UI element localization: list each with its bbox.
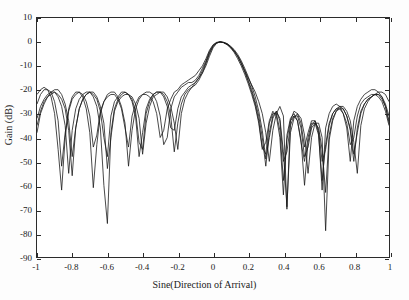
x-tick-label: -0.4 <box>135 263 149 272</box>
x-tick-mark <box>72 18 73 22</box>
x-axis-title: Sine(Direction of Arrival) <box>0 280 409 290</box>
y-tick-mark <box>37 211 41 212</box>
x-tick-label: 0.4 <box>278 263 289 272</box>
x-tick-mark <box>179 18 180 22</box>
x-tick-mark <box>108 253 109 257</box>
x-tick-label: 0.8 <box>349 263 360 272</box>
y-tick-mark <box>385 139 389 140</box>
x-tick-label: 0 <box>211 263 216 272</box>
y-tick-mark <box>385 163 389 164</box>
x-tick-mark <box>320 253 321 257</box>
x-tick-label: -0.6 <box>100 263 114 272</box>
y-tick-mark <box>385 235 389 236</box>
curve-pattern-4 <box>37 42 389 195</box>
x-tick-mark <box>249 253 250 257</box>
y-tick-mark <box>385 90 389 91</box>
y-tick-label: -70 <box>0 205 32 214</box>
curve-pattern-1 <box>37 42 389 209</box>
y-tick-label: -10 <box>0 61 32 70</box>
y-tick-mark <box>37 259 41 260</box>
y-tick-mark <box>385 259 389 260</box>
y-tick-label: 10 <box>0 13 32 22</box>
y-tick-mark <box>385 42 389 43</box>
x-tick-mark <box>214 18 215 22</box>
x-tick-mark <box>391 253 392 257</box>
curves-svg <box>37 18 389 257</box>
y-tick-mark <box>385 114 389 115</box>
x-tick-label: -0.2 <box>170 263 184 272</box>
x-tick-mark <box>391 18 392 22</box>
x-tick-mark <box>285 18 286 22</box>
y-tick-mark <box>385 187 389 188</box>
beampattern-figure: -1-0.8-0.6-0.4-0.200.20.40.60.81 100-10-… <box>0 0 409 300</box>
x-tick-mark <box>356 253 357 257</box>
y-tick-label: 0 <box>0 37 32 46</box>
x-tick-mark <box>320 18 321 22</box>
x-tick-mark <box>72 253 73 257</box>
x-tick-mark <box>285 253 286 257</box>
y-tick-mark <box>37 90 41 91</box>
x-tick-mark <box>356 18 357 22</box>
y-tick-mark <box>37 163 41 164</box>
y-tick-mark <box>37 42 41 43</box>
y-tick-mark <box>37 235 41 236</box>
x-tick-mark <box>143 18 144 22</box>
x-tick-mark <box>214 253 215 257</box>
x-tick-label: 1 <box>388 263 393 272</box>
y-tick-label: -90 <box>0 254 32 263</box>
x-tick-label: -1 <box>32 263 40 272</box>
x-tick-label: 0.2 <box>243 263 254 272</box>
x-tick-mark <box>143 253 144 257</box>
y-tick-mark <box>37 66 41 67</box>
x-tick-mark <box>37 253 38 257</box>
y-tick-mark <box>37 139 41 140</box>
y-tick-mark <box>385 66 389 67</box>
y-tick-mark <box>37 187 41 188</box>
x-tick-label: -0.8 <box>64 263 78 272</box>
y-tick-mark <box>37 18 41 19</box>
x-tick-mark <box>249 18 250 22</box>
y-tick-mark <box>385 18 389 19</box>
y-tick-mark <box>385 211 389 212</box>
y-tick-label: -80 <box>0 229 32 238</box>
y-tick-label: -60 <box>0 181 32 190</box>
x-tick-mark <box>108 18 109 22</box>
x-tick-label: 0.6 <box>314 263 325 272</box>
curve-pattern-3 <box>37 42 389 185</box>
x-tick-mark <box>179 253 180 257</box>
y-axis-title: Gain (dB) <box>4 75 14 175</box>
plot-area <box>36 17 390 258</box>
y-tick-mark <box>37 114 41 115</box>
